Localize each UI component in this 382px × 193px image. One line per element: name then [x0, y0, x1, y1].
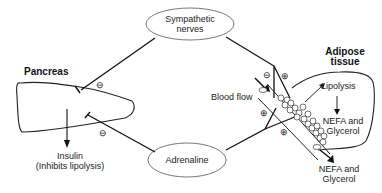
nefa-exit-arrow	[320, 150, 330, 158]
adrenaline-to-adipose-line	[226, 108, 276, 150]
sympathetic-to-pancreas-line	[81, 38, 155, 90]
inhibit-sign-sympathetic-pancreas: ⊖	[96, 80, 104, 90]
insulin-label: Insulin (Inhibits lipolysis)	[34, 151, 106, 171]
nefa-glycerol-tissue-label: NEFA and Glycerol	[321, 116, 365, 136]
adrenaline-label: Adrenaline	[157, 155, 217, 165]
stimulate-sign-sympathetic-adipose: ⊕	[281, 71, 289, 81]
lipolysis-release-arrow	[305, 86, 322, 102]
blood-flow-label: Blood flow	[211, 92, 253, 102]
stimulate-sign-adrenaline-lower: ⊕	[280, 127, 288, 137]
fat-cells	[259, 88, 327, 150]
lipolysis-label: Lipolysis	[321, 81, 356, 91]
inhibit-sign-sympathetic-adipose: ⊖	[263, 70, 271, 80]
pancreas-label: Pancreas	[24, 67, 68, 77]
sympathetic-nerves-label: Sympathetic nerves	[160, 14, 220, 34]
nefa-glycerol-blood-label: NEFA and Glycerol	[318, 164, 360, 184]
adipose-tissue-label: Adipose tissue	[322, 47, 368, 67]
inhibit-sign-adrenaline-pancreas: ⊖	[99, 128, 107, 138]
stimulate-sign-adrenaline-upper: ⊕	[260, 108, 268, 118]
pancreas-shape	[17, 82, 135, 132]
